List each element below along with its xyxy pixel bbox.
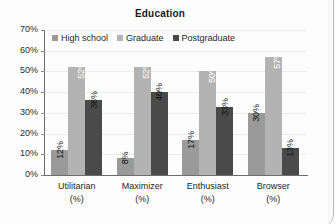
- bar[interactable]: 8%: [117, 158, 134, 175]
- bar[interactable]: 50%: [199, 71, 216, 175]
- legend-swatch-icon: [52, 35, 58, 41]
- legend-label: Postgraduate: [182, 33, 236, 43]
- bar[interactable]: 36%: [85, 100, 102, 175]
- y-axis-tick-label: 30%: [0, 108, 38, 117]
- bar[interactable]: 13%: [282, 148, 299, 175]
- bar-value-label: 40%: [155, 83, 164, 100]
- bar-slot: 17%: [182, 140, 199, 175]
- bar[interactable]: 30%: [248, 113, 265, 175]
- bar[interactable]: 40%: [151, 92, 168, 175]
- y-axis-tick-label: 10%: [0, 149, 38, 158]
- bar-slot: 52%: [134, 67, 151, 175]
- bar-value-label: 50%: [208, 66, 217, 83]
- y-axis-tick: [41, 51, 45, 52]
- category-name: Browser: [257, 181, 290, 191]
- y-axis-tick-label: 50%: [0, 66, 38, 75]
- bar-slot: 50%: [199, 71, 216, 175]
- chart-figure: Education 70%60%50%40%30%20%10%0% High s…: [0, 0, 336, 224]
- bar[interactable]: 52%: [68, 67, 85, 175]
- category-name: Enthusiast: [187, 181, 229, 191]
- bar-value-label: 17%: [186, 131, 195, 148]
- chart-legend: High schoolGraduatePostgraduate: [52, 33, 235, 43]
- bar-slot: 40%: [151, 92, 168, 175]
- scanned-page-shadow: [328, 0, 331, 224]
- bar-slot: 12%: [51, 150, 68, 175]
- category-name: Utilitarian: [58, 181, 96, 191]
- bar-slot: 36%: [85, 100, 102, 175]
- bar-group: 30%57%13%: [248, 30, 299, 175]
- bar-slot: 8%: [117, 158, 134, 175]
- y-axis-tick-label: 20%: [0, 129, 38, 138]
- y-axis-tick-label: 60%: [0, 46, 38, 55]
- bar-slot: 30%: [248, 113, 265, 175]
- y-axis-tick: [41, 134, 45, 135]
- y-axis-tick: [41, 92, 45, 93]
- bar[interactable]: 12%: [51, 150, 68, 175]
- bar-value-label: 30%: [252, 104, 261, 121]
- x-axis-baseline: [44, 175, 308, 176]
- x-axis-category-label: Browser(%): [233, 180, 313, 206]
- y-axis-tick: [41, 154, 45, 155]
- category-unit: (%): [233, 193, 313, 206]
- chart-title: Education: [0, 8, 320, 19]
- bar-value-label: 57%: [273, 51, 282, 68]
- bar-slot: 13%: [282, 148, 299, 175]
- bar-value-label: 13%: [286, 139, 295, 156]
- bar-value-label: 8%: [121, 152, 130, 165]
- bar-value-label: 52%: [77, 62, 86, 79]
- legend-label: Graduate: [126, 33, 164, 43]
- bar-slot: 57%: [265, 57, 282, 175]
- y-axis-tick: [41, 113, 45, 114]
- legend-swatch-icon: [117, 35, 123, 41]
- bar-slot: 33%: [216, 107, 233, 175]
- bar-value-label: 36%: [89, 92, 98, 109]
- bar-group: 12%52%36%: [51, 30, 102, 175]
- bar-group: 17%50%33%: [182, 30, 233, 175]
- category-name: Maximizer: [122, 181, 163, 191]
- bar-slot: 52%: [68, 67, 85, 175]
- bar[interactable]: 33%: [216, 107, 233, 175]
- y-axis-tick-label: 70%: [0, 25, 38, 34]
- bar-value-label: 12%: [55, 141, 64, 158]
- legend-swatch-icon: [173, 35, 179, 41]
- bar-value-label: 52%: [142, 62, 151, 79]
- bar[interactable]: 57%: [265, 57, 282, 175]
- bar-group: 8%52%40%: [117, 30, 168, 175]
- legend-label: High school: [61, 33, 108, 43]
- scanned-page-edge: [317, 0, 334, 224]
- y-axis-tick: [41, 71, 45, 72]
- y-axis-tick: [41, 30, 45, 31]
- legend-item-high-school[interactable]: High school: [52, 33, 108, 43]
- legend-item-postgraduate[interactable]: Postgraduate: [173, 33, 236, 43]
- bar-value-label: 33%: [220, 98, 229, 115]
- bar[interactable]: 17%: [182, 140, 199, 175]
- bar[interactable]: 52%: [134, 67, 151, 175]
- y-axis-tick-label: 40%: [0, 87, 38, 96]
- legend-item-graduate[interactable]: Graduate: [117, 33, 164, 43]
- y-axis-tick-label: 0%: [0, 170, 38, 179]
